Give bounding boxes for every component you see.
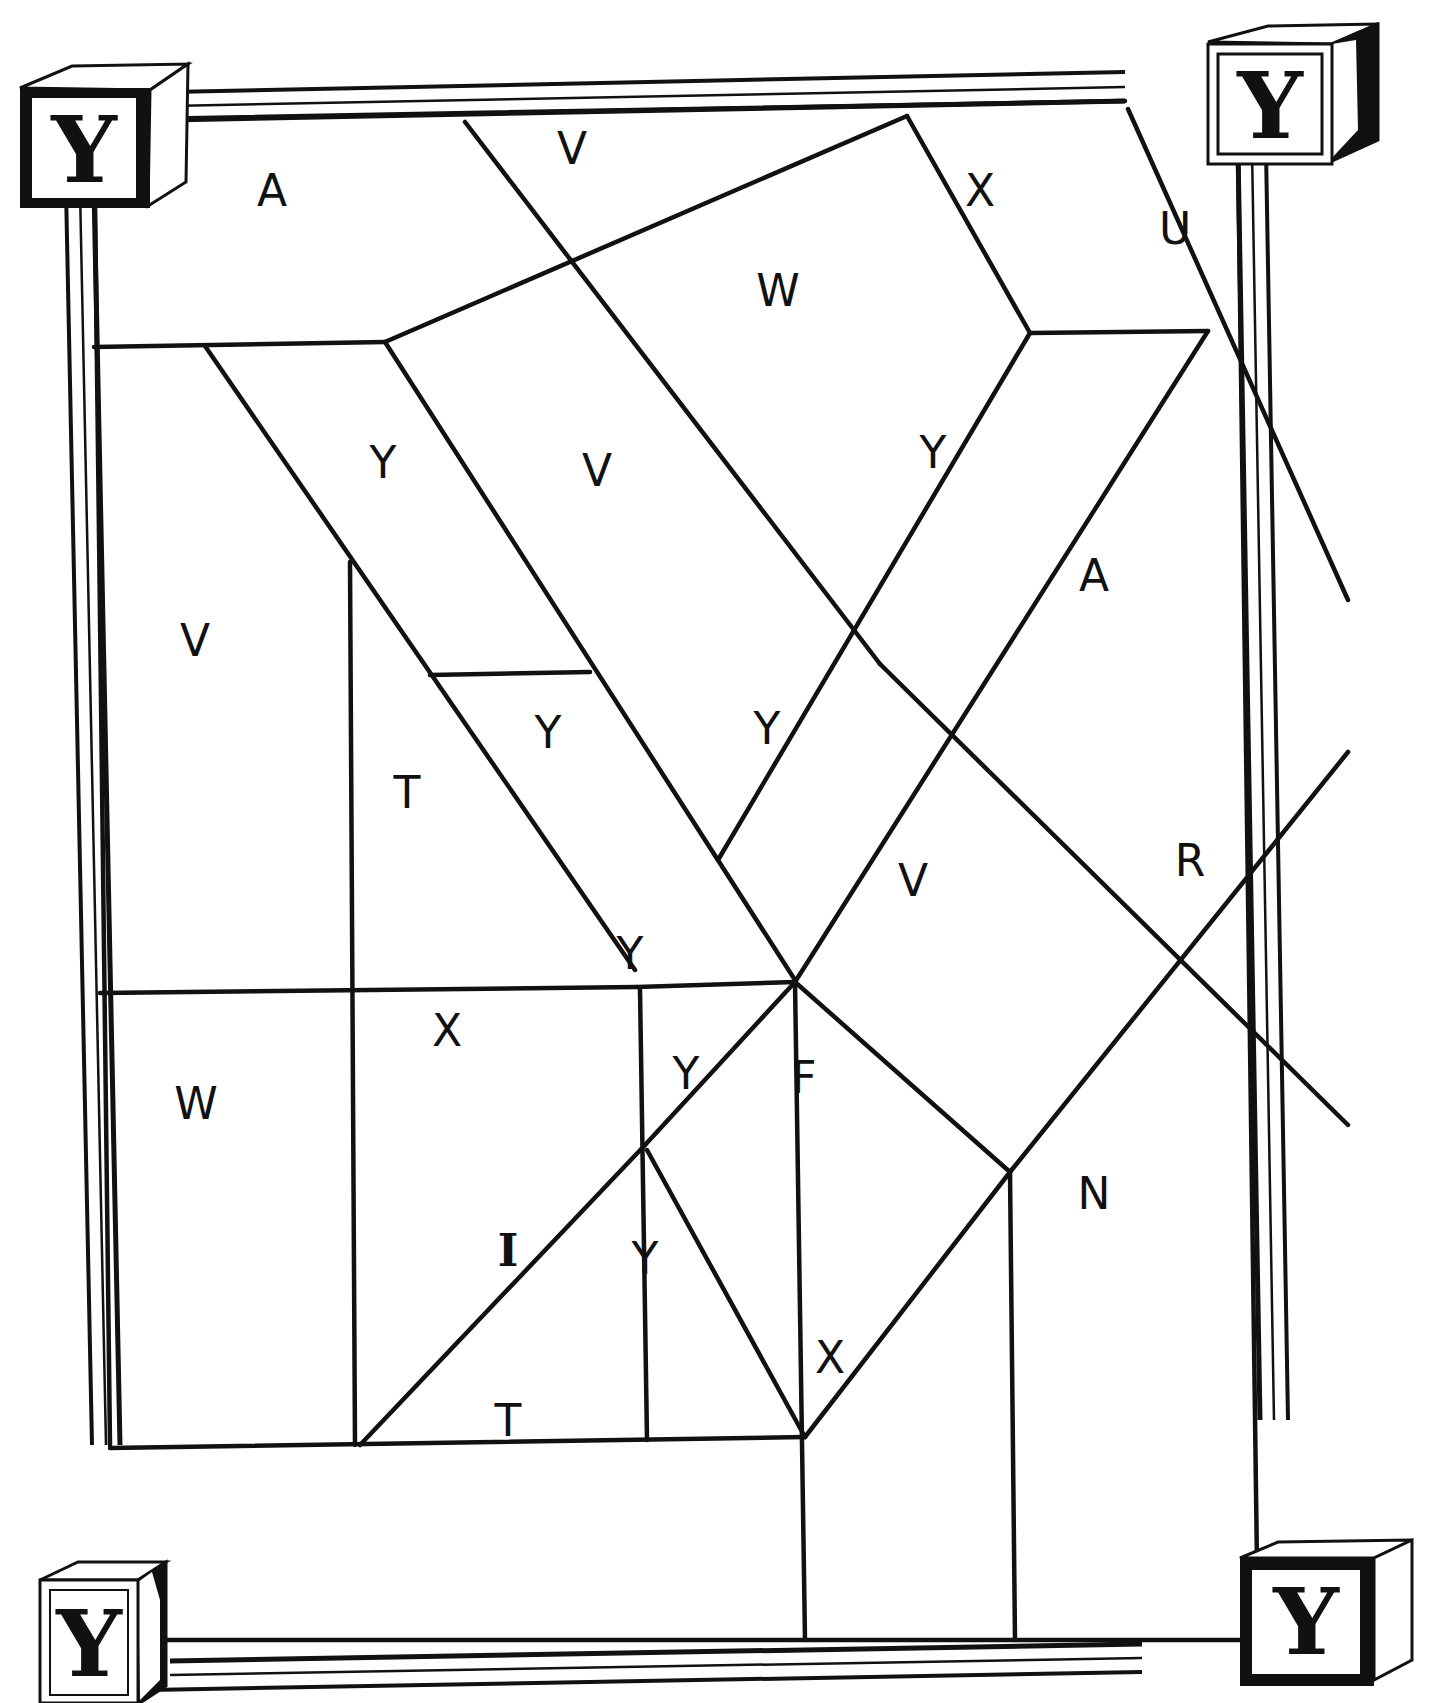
region-letter: Y <box>919 427 947 478</box>
region-letter: Y <box>369 437 397 488</box>
corner-block-bottom-right: Y <box>1240 1540 1412 1686</box>
region-letter: V <box>898 855 928 906</box>
region-letter: Y <box>616 928 644 979</box>
region-letter: X <box>815 1332 845 1383</box>
region-letter: R <box>1175 835 1206 886</box>
region-letter: W <box>174 1078 218 1129</box>
puzzle-page: Y Y Y Y A V X <box>0 0 1440 1703</box>
block-letter-y: Y <box>55 1590 123 1698</box>
corner-block-bottom-left: Y <box>40 1562 166 1703</box>
region-letter: A <box>257 165 287 216</box>
mosaic-canvas: Y Y Y Y A V X <box>0 0 1440 1703</box>
block-letter-y: Y <box>1236 52 1304 160</box>
region-letter: V <box>557 123 587 174</box>
corner-block-top-right: Y <box>1208 24 1378 164</box>
region-letter: V <box>180 615 210 666</box>
region-letter: T <box>393 767 421 818</box>
region-letter: T <box>494 1395 522 1446</box>
region-letter: X <box>432 1005 462 1056</box>
region-letter: F <box>791 1052 816 1103</box>
corner-block-top-left: Y <box>20 64 188 208</box>
region-letter: Y <box>631 1233 659 1284</box>
region-letter: U <box>1159 203 1191 254</box>
region-letter: X <box>965 165 995 216</box>
region-letter: A <box>1079 550 1109 601</box>
region-lines <box>94 101 1348 1640</box>
region-letters: A V X U W Y V Y A V Y Y T V R Y X Y F W … <box>174 123 1205 1446</box>
block-letter-y: Y <box>50 96 118 204</box>
region-letter: Y <box>672 1048 700 1099</box>
block-letter-y: Y <box>1272 1568 1340 1676</box>
region-letter: W <box>756 265 800 316</box>
region-letter: I <box>498 1225 519 1276</box>
region-letter: Y <box>753 703 781 754</box>
region-letter: V <box>582 445 612 496</box>
region-letter: Y <box>534 707 562 758</box>
region-letter: N <box>1078 1168 1111 1219</box>
